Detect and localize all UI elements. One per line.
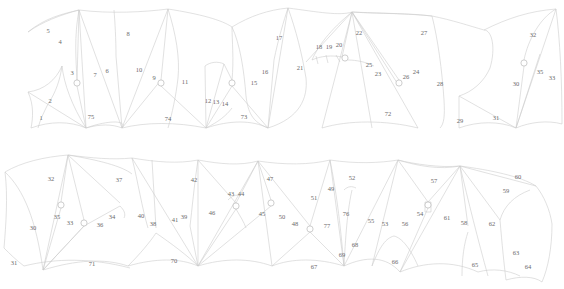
upper-fan-122 (86, 9, 206, 128)
panel-label-27: 27 (421, 30, 428, 37)
panel-label-62: 62 (489, 221, 496, 228)
panel-label-68: 68 (352, 242, 359, 249)
panel-label-52: 52 (349, 175, 356, 182)
panel-label-14: 14 (222, 101, 229, 108)
panel-label-24: 24 (413, 69, 420, 76)
panel-label-17: 17 (276, 35, 283, 42)
panel-label-22: 22 (356, 30, 363, 37)
panel-label-60: 60 (515, 174, 522, 181)
panel-label-69: 69 (339, 252, 346, 259)
node-lower-45 (268, 200, 274, 206)
panel-label-21: 21 (297, 65, 304, 72)
panel-label-35: 35 (537, 69, 544, 76)
panel-label-50: 50 (279, 214, 286, 221)
panel-label-10: 10 (136, 67, 143, 74)
panel-label-73: 73 (241, 114, 248, 121)
panel-label-45: 45 (259, 211, 266, 218)
panel-label-13: 13 (213, 99, 220, 106)
node-upper-3 (74, 80, 80, 86)
panel-label-35: 35 (54, 214, 61, 221)
node-lower-32 (58, 202, 64, 208)
panel-label-33: 33 (549, 75, 556, 82)
panel-label-12: 12 (205, 98, 212, 105)
node-lower-50 (307, 226, 313, 232)
panel-label-63: 63 (513, 250, 520, 257)
upper-panels-3-8 (28, 10, 123, 128)
panel-label-64: 64 (525, 264, 532, 271)
panel-label-29: 29 (457, 118, 464, 125)
panel-label-25: 25 (366, 62, 373, 69)
panel-label-32: 32 (530, 32, 537, 39)
node-upper-35 (521, 60, 527, 66)
panel-label-74: 74 (165, 116, 172, 123)
panel-label-31: 31 (11, 260, 18, 267)
panel-label-59: 59 (503, 188, 510, 195)
panel-label-77: 77 (324, 223, 331, 230)
panel-label-66: 66 (392, 259, 399, 266)
panel-label-51: 51 (311, 195, 318, 202)
panel-label-53: 53 (382, 221, 389, 228)
panel-label-30: 30 (513, 81, 520, 88)
node-markers (58, 55, 527, 232)
upper-panels-9-11 (161, 9, 232, 128)
node-lower-44 (233, 203, 239, 209)
panel-label-11: 11 (182, 79, 188, 86)
panel-label-70: 70 (171, 258, 178, 265)
node-upper-26 (396, 80, 402, 86)
lower-panels-53-57 (344, 160, 460, 272)
panel-label-61: 61 (444, 215, 451, 222)
panel-label-55: 55 (368, 218, 375, 225)
panel-label-67: 67 (311, 264, 318, 271)
panel-label-57: 57 (431, 178, 438, 185)
panel-label-6: 6 (105, 68, 108, 75)
panel-label-47: 47 (267, 176, 274, 183)
upper-panels-12-16 (205, 8, 288, 128)
diagram-canvas: 1234567891011121314151617181920212223242… (0, 0, 564, 289)
panel-label-7: 7 (93, 72, 96, 79)
panel-label-56: 56 (402, 221, 409, 228)
panel-label-42: 42 (191, 177, 198, 184)
panel-label-39: 39 (181, 214, 188, 221)
upper-panels-17-21 (268, 8, 352, 128)
node-upper-14 (229, 80, 235, 86)
panel-label-4: 4 (58, 39, 61, 46)
panel-label-8: 8 (126, 31, 129, 38)
node-lower-54 (425, 202, 431, 208)
node-upper-9 (158, 80, 164, 86)
panel-label-41: 41 (172, 217, 179, 224)
panel-layout-svg (0, 0, 564, 289)
panel-label-18: 18 (316, 44, 323, 51)
panel-label-23: 23 (375, 71, 382, 78)
panel-label-48: 48 (292, 221, 299, 228)
node-upper-20 (342, 55, 348, 61)
panel-label-28: 28 (437, 81, 444, 88)
panel-label-49: 49 (328, 186, 335, 193)
panel-label-71: 71 (89, 261, 96, 268)
panel-label-72: 72 (385, 111, 392, 118)
panel-label-58: 58 (461, 220, 468, 227)
upper-panels-28-31 (459, 30, 516, 128)
panel-label-26: 26 (403, 74, 410, 81)
panel-label-20: 20 (336, 42, 343, 49)
panel-label-54: 54 (417, 211, 424, 218)
panel-label-34: 34 (109, 214, 116, 221)
panel-label-2: 2 (48, 98, 51, 105)
panel-label-40: 40 (138, 213, 145, 220)
panel-label-5: 5 (46, 28, 49, 35)
panel-label-1: 1 (39, 115, 42, 122)
panel-label-38: 38 (150, 221, 157, 228)
panel-label-32: 32 (48, 176, 55, 183)
panel-label-76: 76 (343, 211, 350, 218)
panel-label-65: 65 (472, 262, 479, 269)
panel-label-30: 30 (30, 225, 37, 232)
node-lower-33 (81, 220, 87, 226)
panel-label-3: 3 (70, 70, 73, 77)
panel-label-16: 16 (262, 69, 269, 76)
panel-label-9: 9 (152, 75, 155, 82)
panel-label-15: 15 (251, 80, 258, 87)
panel-label-43: 43 (228, 191, 235, 198)
panel-label-37: 37 (116, 177, 123, 184)
panel-label-31: 31 (493, 115, 500, 122)
panel-label-33: 33 (67, 220, 74, 227)
panel-label-44: 44 (238, 191, 245, 198)
